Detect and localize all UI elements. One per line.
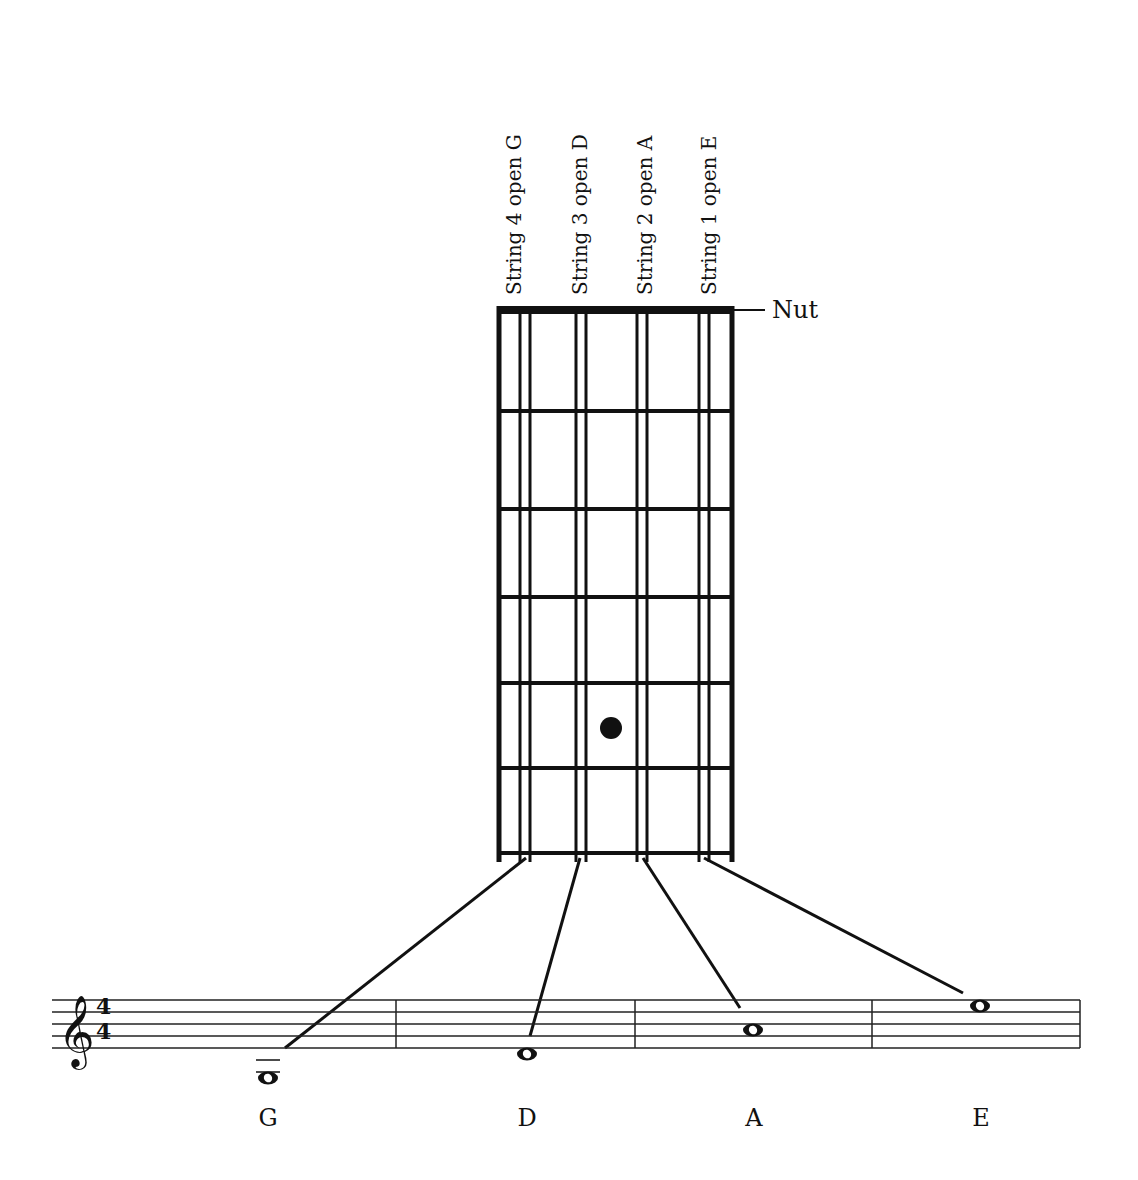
whole-note-g (258, 1072, 278, 1085)
fret-marker-dot (600, 717, 622, 739)
whole-note-a (743, 1024, 763, 1037)
string-label-2: String 2 open A (633, 136, 657, 295)
fretboard (497, 306, 765, 862)
string-to-note-connectors (285, 858, 963, 1048)
time-signature-bottom: 4 (96, 1018, 111, 1044)
note-name-g: G (258, 1104, 277, 1132)
note-name-e: E (972, 1104, 990, 1132)
music-staff: 𝄞44 (52, 993, 1080, 1070)
time-signature-top: 4 (96, 993, 111, 1019)
whole-note-d (517, 1048, 537, 1061)
whole-note-e (970, 1000, 990, 1013)
note-name-d: D (517, 1104, 536, 1132)
bass-fretboard-diagram: 𝄞44 String 4 open G String 3 open D Stri… (0, 0, 1138, 1180)
string-label-4: String 4 open G (502, 134, 526, 295)
connector-1 (285, 858, 526, 1048)
string-label-1: String 1 open E (697, 136, 721, 295)
connector-4 (704, 858, 963, 993)
nut (497, 306, 734, 314)
note-name-a: A (745, 1104, 762, 1132)
treble-clef-icon: 𝄞 (58, 994, 95, 1070)
connector-3 (643, 858, 740, 1008)
nut-label: Nut (772, 296, 818, 324)
string-label-3: String 3 open D (568, 134, 592, 295)
connector-2 (530, 858, 580, 1036)
